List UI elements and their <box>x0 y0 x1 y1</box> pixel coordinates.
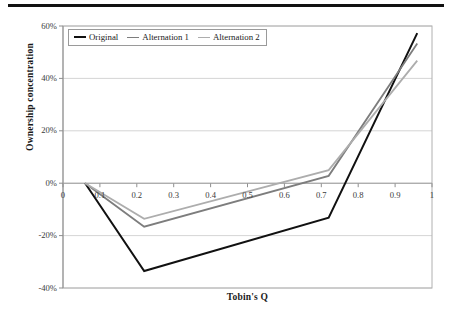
figure-container: 60%40%20%0%-20%-40% 00.10.20.30.40.50.60… <box>0 0 452 323</box>
x-tick-label: 0.6 <box>270 190 298 200</box>
x-tick-label: 0.7 <box>307 190 335 200</box>
plot-border-rect <box>63 26 432 288</box>
x-tick-label: 0 <box>49 190 77 200</box>
x-tick-label: 0.2 <box>123 190 151 200</box>
x-axis-title: Tobin's Q <box>63 292 432 302</box>
legend-entry: Alternation 2 <box>198 33 260 42</box>
gridlines-group <box>63 26 432 288</box>
x-tick-label: 0.8 <box>344 190 372 200</box>
legend-label: Original <box>89 33 118 42</box>
y-axis-tick-marks <box>59 26 63 288</box>
legend-entry: Alternation 1 <box>127 33 189 42</box>
y-axis-title: Ownership concentration <box>25 7 35 187</box>
chart-legend: OriginalAlternation 1Alternation 2 <box>68 29 267 46</box>
x-tick-label: 0.1 <box>86 190 114 200</box>
x-tick-label: 0.9 <box>381 190 409 200</box>
legend-swatch-icon <box>198 37 210 38</box>
x-axis-tick-marks <box>63 183 432 187</box>
x-tick-label: 1 <box>418 190 446 200</box>
legend-swatch-icon <box>74 36 86 38</box>
x-tick-label: 0.4 <box>197 190 225 200</box>
legend-swatch-icon <box>127 37 139 38</box>
y-tick-label: -40% <box>23 283 57 293</box>
y-tick-label: -20% <box>23 230 57 240</box>
legend-label: Alternation 2 <box>213 33 260 42</box>
x-tick-label: 0.5 <box>234 190 262 200</box>
legend-entry: Original <box>74 33 118 42</box>
legend-label: Alternation 1 <box>142 33 189 42</box>
x-tick-label: 0.3 <box>160 190 188 200</box>
line-chart-canvas <box>0 0 452 323</box>
plot-area-border <box>63 26 432 288</box>
